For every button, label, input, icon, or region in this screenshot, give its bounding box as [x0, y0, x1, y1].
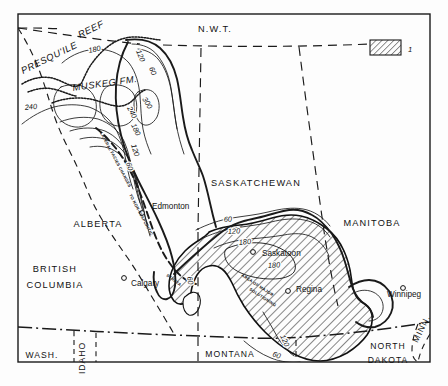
state-label-dakota: DAKOTA — [368, 355, 409, 365]
isopach-map: 1 N.W.T.SASKATCHEWANMANITOBAALBERTA BRIT… — [0, 0, 448, 386]
province-label-saskatchewan: SASKATCHEWAN — [211, 178, 301, 188]
map-background — [0, 0, 448, 386]
city-label-regina: Regina — [296, 285, 322, 294]
contour-label-180-11: 180 — [238, 237, 252, 247]
city-marker-saskatoon — [251, 250, 256, 255]
city-label-calgary: Calgary — [131, 279, 160, 288]
city-marker-regina — [286, 289, 291, 294]
state-label-north: NORTH — [370, 341, 405, 351]
legend-swatch — [370, 40, 401, 55]
city-marker-calgary — [122, 276, 127, 281]
city-label-saskatoon: Saskatoon — [262, 249, 301, 258]
city-label-edmonton: Edmonton — [152, 202, 190, 211]
legend-label: 1 — [408, 45, 412, 54]
region-label-british: BRITISH — [33, 264, 77, 274]
province-label-n-w-t: N.W.T. — [198, 24, 232, 34]
city-label-winnipeg: Winnipeg — [387, 290, 422, 299]
state-label-montana: MONTANA — [205, 349, 254, 359]
region-label-columbia: COLUMBIA — [26, 280, 83, 290]
contour-label-240-3: 240 — [23, 102, 38, 112]
contour-label-120-10: 120 — [228, 226, 242, 236]
map-canvas: 1 N.W.T.SASKATCHEWANMANITOBAALBERTA BRIT… — [0, 0, 448, 386]
contour-label-180-12: 180 — [268, 260, 282, 270]
province-label-alberta: ALBERTA — [73, 219, 122, 229]
state-label-idaho: IDAHO — [77, 342, 87, 374]
state-label-wash: WASH. — [26, 350, 59, 360]
contour-label-60-9: 60 — [224, 214, 234, 224]
province-label-manitoba: MANITOBA — [343, 218, 400, 228]
